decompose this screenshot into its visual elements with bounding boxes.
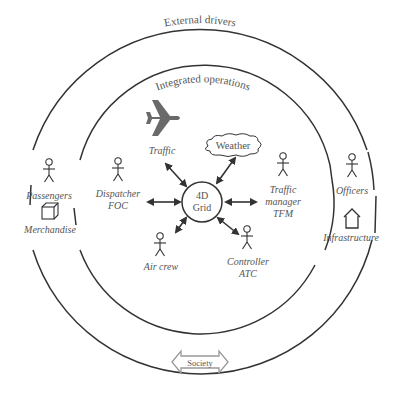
- outer-ring-label: External drivers: [163, 13, 237, 29]
- tfm-label-line2: manager: [265, 196, 301, 207]
- airplane-icon: [146, 100, 180, 136]
- society-label: Society: [187, 358, 213, 368]
- tfm-figure-icon: [277, 153, 289, 176]
- grid-node: 4D Grid: [182, 182, 222, 222]
- traffic-label: Traffic: [149, 145, 176, 156]
- dispatcher-figure-icon: [112, 158, 124, 181]
- tfm-label-line3: TFM: [273, 208, 294, 219]
- arrow-controller: [218, 218, 238, 234]
- grid-label-line1: 4D: [196, 190, 208, 201]
- weather-label: Weather: [216, 140, 251, 151]
- house-icon: [344, 209, 360, 228]
- aircrew-figure-icon: [154, 233, 166, 256]
- arrow-aircrew: [176, 218, 186, 232]
- integrated-operations-diagram: External drivers Integrated operations 4…: [0, 0, 399, 396]
- tfm-label-line1: Traffic: [270, 184, 297, 195]
- box-icon: [42, 203, 58, 219]
- controller-figure-icon: [241, 226, 253, 249]
- officers-label: Officers: [336, 185, 368, 196]
- aircrew-label: Air crew: [143, 261, 179, 272]
- inner-ring-label: Integrated operations: [154, 72, 252, 92]
- controller-label-line2: ATC: [238, 268, 257, 279]
- passengers-figure-icon: [43, 159, 55, 182]
- officers-figure-icon: [346, 154, 358, 177]
- arrow-traffic: [166, 164, 186, 186]
- infrastructure-label: Infrastructure: [322, 232, 379, 243]
- merchandise-label: Merchandise: [23, 224, 76, 235]
- dispatcher-label-line2: FOC: [107, 200, 128, 211]
- controller-label-line1: Controller: [227, 256, 269, 267]
- passengers-label: Passengers: [25, 190, 72, 201]
- arrow-weather: [217, 158, 235, 183]
- grid-label-line2: Grid: [193, 202, 211, 213]
- dispatcher-label-line1: Dispatcher: [95, 188, 141, 199]
